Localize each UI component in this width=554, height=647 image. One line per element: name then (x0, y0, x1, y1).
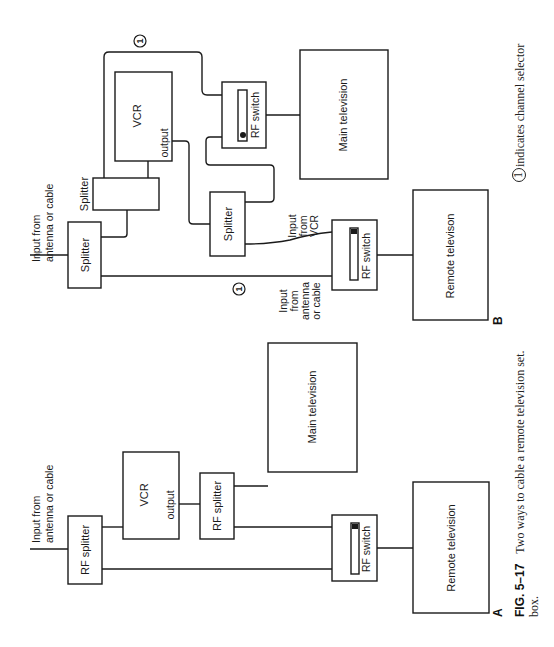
figure-number: FIG. 5–17 (513, 563, 527, 617)
caption-line-1: FIG. 5–17Two ways to cable a remote tele… (513, 351, 527, 617)
a-rf-switch-label: RF switch (360, 526, 372, 572)
a-diagram-label: A (491, 608, 505, 617)
cabling-figure: Input from antenna or cable Splitter Spl… (0, 0, 554, 647)
caption-selector-symbol: 1 (511, 172, 525, 178)
a-input-label-2: antenna or cable (43, 465, 55, 543)
figure-caption: FIG. 5–17Two ways to cable a remote tele… (511, 44, 541, 617)
b-rf-switch-remote-knob-icon (351, 229, 357, 234)
b-rf-switch-remote-label: RF switch (360, 233, 372, 279)
b-diagram-label: B (491, 316, 505, 325)
b-selector-lower-label: 1 (234, 286, 244, 291)
b-vcr-label: VCR (131, 104, 143, 127)
a-input-label-1: Input from (30, 495, 42, 543)
b-remote-tv-label: Remote televison (444, 214, 456, 299)
caption-line-2: box. (527, 596, 541, 617)
b-input-label-1: Input from (30, 214, 42, 262)
b-input-ant-4: or cable (310, 282, 322, 320)
b-selector-top-label: 1 (135, 38, 145, 43)
caption-text: Two ways to cable a remote television se… (513, 351, 527, 554)
b-splitter-1-label: Splitter (79, 238, 91, 273)
a-rf-splitter-1-label: RF splitter (79, 525, 91, 575)
a-remote-tv-label: Remote television (445, 504, 457, 591)
b-vcr-output-label: output (158, 128, 170, 157)
caption-text-tail: indicates channel selector (513, 44, 527, 167)
b-rf-switch-main-knob-icon (240, 132, 246, 138)
a-vcr-label: VCR (138, 483, 150, 506)
b-main-tv-label: Main television (337, 79, 349, 152)
b-splitter-3-label: Splitter (222, 207, 234, 242)
a-rf-switch-knob-icon (352, 524, 358, 529)
a-rf-switch-slider (351, 523, 359, 574)
a-main-tv-label: Main television (306, 371, 318, 444)
a-vcr-output-label: output (164, 490, 176, 519)
diagram-a: Input from antenna or cable RF splitter … (30, 343, 505, 617)
b-rf-switch-remote-slider (350, 228, 358, 280)
b-wire-vcr-split3 (172, 141, 210, 224)
b-splitter-2-label: Splitter (78, 177, 90, 212)
b-input-label-2: antenna or cable (43, 184, 55, 262)
b-input-vcr-3: VCR (308, 214, 320, 237)
b-rf-switch-main-label: RF switch (249, 92, 261, 138)
b-splitter-2 (93, 178, 159, 210)
b-wire-split1-split2 (101, 210, 127, 237)
a-rf-splitter-2-label: RF splitter (211, 481, 223, 531)
diagram-b: Input from antenna or cable Splitter Spl… (30, 35, 505, 325)
